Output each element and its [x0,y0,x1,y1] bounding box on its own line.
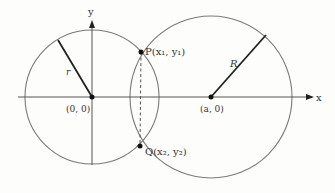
y-axis-arrow-icon [89,20,95,28]
x-axis-label: x [316,92,322,103]
point-p-label: P(x₁, y₁) [145,46,185,57]
radius-R-line [211,35,266,97]
point-q-label: Q(x₂, y₂) [145,146,187,157]
chord-pq-dashed [140,52,141,146]
radius-r-line [58,40,92,97]
radius-R-label: R [229,58,238,69]
center-a-label: (a, 0) [200,104,224,114]
point-q [138,144,143,149]
point-p [139,50,144,55]
y-axis-label: y [87,6,94,17]
center-a-point [209,95,214,100]
intersecting-circles-diagram: y x r R (0, 0) (a, 0) P(x₁, y₁) Q(x₂, y₂… [0,0,335,193]
radius-r-label: r [66,67,71,77]
x-axis-arrow-icon [306,94,314,100]
origin-label: (0, 0) [66,104,90,114]
origin-point [90,95,95,100]
